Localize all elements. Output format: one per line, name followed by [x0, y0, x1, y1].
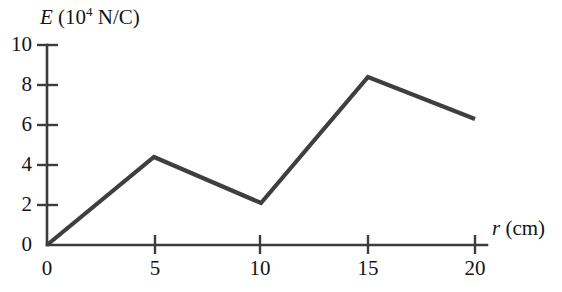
y-tick-label-4: 4 [0, 154, 32, 175]
chart-plot [0, 0, 562, 292]
y-tick-label-6: 6 [0, 114, 32, 135]
y-tick-label-8: 8 [0, 74, 32, 95]
y-tick-label-10: 10 [0, 34, 32, 55]
x-tick-label-5: 5 [135, 258, 175, 279]
y-tick-label-0: 0 [0, 234, 32, 255]
x-axis-title: r (cm) [492, 218, 545, 239]
y-axis-title: E (104 N/C) [40, 7, 140, 28]
x-tick-label-0: 0 [27, 258, 67, 279]
x-tick-label-20: 20 [455, 258, 495, 279]
data-series-line [47, 77, 475, 245]
y-axis-title-rest: N/C) [93, 5, 140, 29]
y-tick-label-2: 2 [0, 194, 32, 215]
figure-container: 10 8 6 4 2 0 0 5 10 15 20 E (104 N/C) r … [0, 0, 562, 292]
x-tick-label-10: 10 [240, 258, 280, 279]
x-axis-title-variable: r [492, 216, 500, 240]
y-axis-title-variable: E [40, 5, 53, 29]
x-tick-label-15: 15 [348, 258, 388, 279]
x-axis-title-rest: (cm) [500, 216, 545, 240]
y-axis-title-open: (10 [53, 5, 86, 29]
